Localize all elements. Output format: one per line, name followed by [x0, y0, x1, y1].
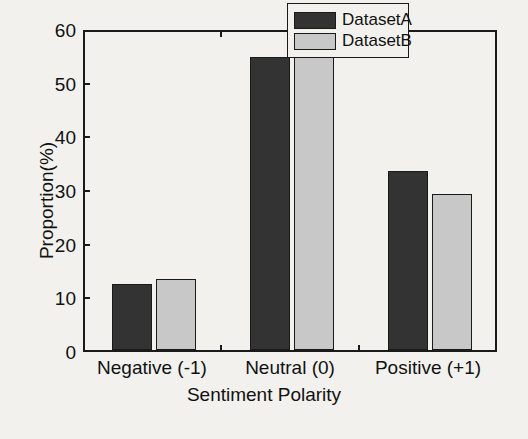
- y-tick-label: 10: [0, 289, 76, 308]
- legend-label: DatasetA: [342, 11, 412, 29]
- bar-dataseta-positive: [388, 171, 428, 350]
- chart-legend: DatasetADatasetB: [287, 3, 409, 58]
- x-tick-mark: [358, 345, 360, 352]
- y-tick-label: 30: [0, 182, 76, 201]
- legend-swatch-icon: [294, 12, 336, 29]
- chart-figure: Proportion(%) 0102030405060 Negative (-1…: [0, 0, 528, 439]
- legend-item-datasetb[interactable]: DatasetB: [294, 31, 402, 51]
- bar-datasetb-neutral: [294, 39, 334, 350]
- legend-label: DatasetB: [342, 32, 412, 50]
- y-tick-label: 40: [0, 128, 76, 147]
- y-tick-label: 60: [0, 21, 76, 40]
- y-axis-title: Proportion(%): [37, 91, 56, 311]
- bar-datasetb-negative: [156, 279, 196, 350]
- y-tick-label: 50: [0, 74, 76, 93]
- legend-swatch-icon: [294, 33, 336, 50]
- x-tick-mark: [220, 30, 222, 37]
- plot-area: [83, 30, 497, 352]
- bar-dataseta-negative: [112, 284, 152, 350]
- x-group-label: Positive (+1): [338, 358, 518, 378]
- legend-item-dataseta[interactable]: DatasetA: [294, 10, 402, 30]
- x-axis-title: Sentiment Polarity: [0, 385, 528, 405]
- x-tick-mark: [220, 345, 222, 352]
- bar-dataseta-neutral: [250, 57, 290, 350]
- y-tick-label: 20: [0, 235, 76, 254]
- bar-datasetb-positive: [432, 194, 472, 350]
